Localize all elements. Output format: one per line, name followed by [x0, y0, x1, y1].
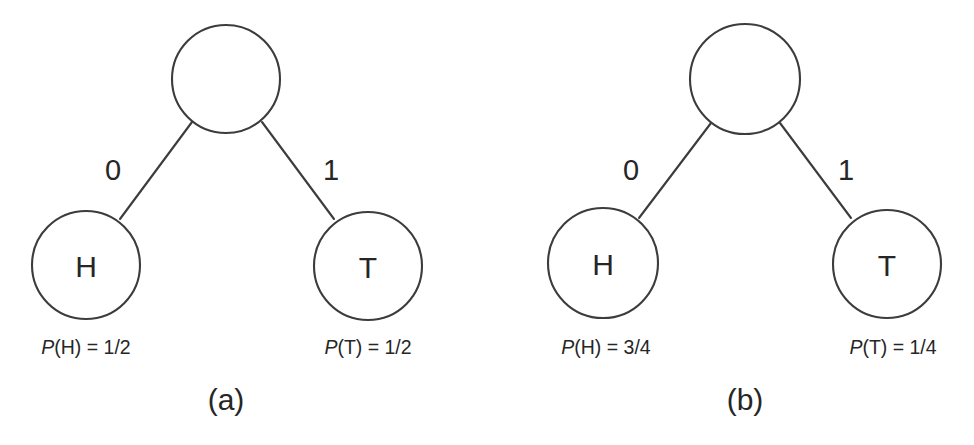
panel-a-prob-label-h: P(H) = 1/2: [41, 336, 130, 358]
panel-b-root-node: [690, 24, 800, 134]
panel-b-prob-h-var: P: [561, 336, 574, 358]
binary-tree-figure: H T 0 1 P(H) = 1/2 P(T) = 1/2 (a) H T 0 …: [0, 0, 974, 445]
panel-b: H T 0 1 P(H) = 3/4 P(T) = 1/4 (b): [548, 24, 941, 416]
panel-b-prob-label-h: P(H) = 3/4: [561, 336, 651, 358]
panel-a-leaf-label-t: T: [359, 251, 377, 284]
panel-b-prob-h-arg: (H) =: [574, 336, 623, 358]
panel-a-prob-t-value: 1/2: [385, 336, 412, 358]
panel-a: H T 0 1 P(H) = 1/2 P(T) = 1/2 (a): [32, 25, 422, 416]
panel-a-edge-label-1: 1: [323, 154, 339, 186]
panel-b-edge-0: [639, 123, 711, 218]
panel-b-prob-t-arg: (T) =: [862, 336, 909, 358]
panel-a-edge-label-0: 0: [105, 154, 121, 186]
panel-a-prob-label-t: P(T) = 1/2: [324, 336, 411, 358]
panel-b-prob-label-t: P(T) = 1/4: [849, 336, 936, 358]
panel-a-leaf-label-h: H: [75, 250, 97, 283]
panel-b-leaf-label-h: H: [592, 248, 614, 281]
panel-b-edge-label-1: 1: [838, 154, 854, 186]
panel-a-prob-h-value: 1/2: [104, 336, 131, 358]
panel-a-root-node: [172, 25, 280, 133]
panel-a-edge-0: [120, 122, 192, 219]
panel-a-caption: (a): [208, 383, 245, 416]
panel-b-edge-label-0: 0: [623, 154, 639, 186]
panel-b-caption: (b): [727, 383, 764, 416]
figure-container: H T 0 1 P(H) = 1/2 P(T) = 1/2 (a) H T 0 …: [0, 0, 974, 445]
panel-b-leaf-label-t: T: [878, 249, 896, 282]
panel-b-prob-t-var: P: [849, 336, 862, 358]
panel-a-prob-h-arg: (H) =: [54, 336, 103, 358]
panel-a-prob-t-arg: (T) =: [337, 336, 384, 358]
panel-b-prob-h-value: 3/4: [624, 336, 651, 358]
panel-b-prob-t-value: 1/4: [910, 336, 937, 358]
panel-a-prob-t-var: P: [324, 336, 337, 358]
panel-a-prob-h-var: P: [41, 336, 54, 358]
